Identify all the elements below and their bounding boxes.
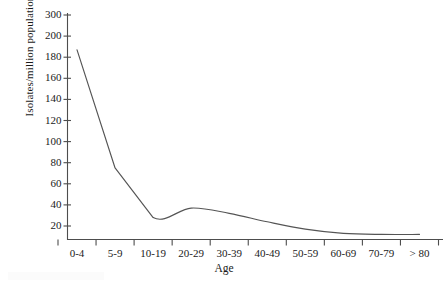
- plot-area: [0, 0, 448, 287]
- chart-figure: Isolates/million population 300200180160…: [0, 0, 448, 287]
- axes: [58, 13, 443, 246]
- data-line-series-1: [77, 50, 419, 235]
- scan-artifact: [8, 272, 104, 280]
